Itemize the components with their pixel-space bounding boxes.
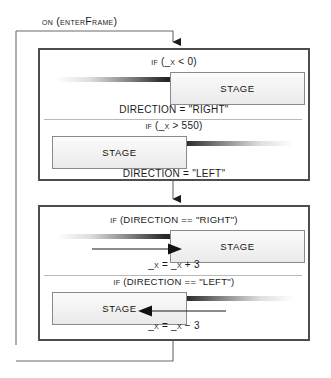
stage-label: STAGE (220, 241, 255, 252)
stage-label: STAGE (220, 83, 255, 94)
loop-return-bottom (16, 341, 173, 361)
stage-label: STAGE (102, 303, 137, 314)
motion-trail-left-2 (172, 296, 294, 301)
action-increment-x: _x = _x + 3 (38, 259, 310, 270)
stage-label: STAGE (102, 147, 137, 158)
condition-direction-is-right: if (DIRECTION == "RIGHT") (38, 214, 310, 225)
condition-direction-is-left: if (DIRECTION == "LEFT") (38, 276, 310, 287)
stage-box-branch-2: STAGE (52, 136, 187, 169)
motion-trail-left-1 (172, 141, 294, 146)
stage-box-branch-1: STAGE (170, 72, 305, 105)
action-decrement-x: _x = _x − 3 (38, 320, 310, 331)
motion-trail-right-2 (56, 234, 178, 239)
action-set-direction-left: DIRECTION = "LEFT" (38, 168, 310, 179)
condition-x-greater-than-550: if (_x > 550) (38, 120, 310, 131)
loop-entry-line (16, 31, 173, 42)
flowchart-diagram: on (enterFrame) if (_x < 0) STAGE DIRECT… (0, 0, 331, 378)
action-set-direction-right: DIRECTION = "RIGHT" (38, 104, 310, 115)
event-handler-title: on (enterFrame) (42, 15, 117, 27)
motion-trail-right-1 (56, 77, 178, 82)
condition-x-less-than-zero: if (_x < 0) (38, 56, 310, 67)
